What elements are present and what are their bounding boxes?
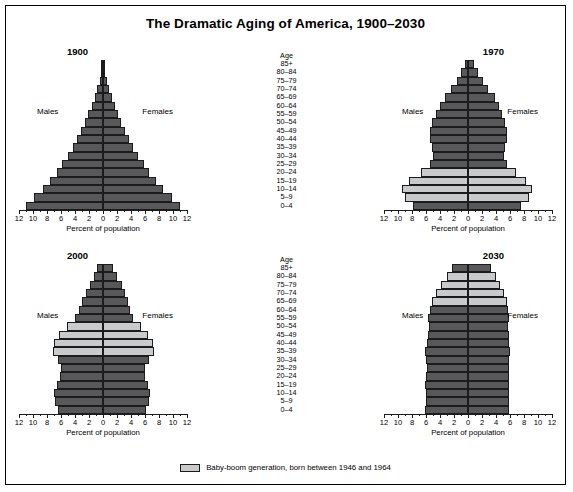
bar-female xyxy=(468,397,509,405)
x-axis-minor-tick xyxy=(68,210,69,212)
x-axis-minor-tick xyxy=(40,210,41,212)
bar-female xyxy=(468,102,499,110)
x-axis-minor-tick xyxy=(475,210,476,212)
bar-male xyxy=(426,372,468,380)
bar-female xyxy=(468,322,508,330)
males-label: Males xyxy=(37,311,58,320)
x-axis-minor-tick xyxy=(26,210,27,212)
bar-female xyxy=(468,193,529,201)
bar-male xyxy=(60,372,103,380)
bar-male xyxy=(53,347,103,355)
bar-male xyxy=(85,118,103,126)
x-axis-minor-tick xyxy=(40,414,41,416)
x-axis-tick-label: 12 xyxy=(179,418,195,427)
x-axis-minor-tick xyxy=(503,414,504,416)
x-axis-tick xyxy=(131,414,132,418)
bar-female xyxy=(468,272,496,280)
x-axis-minor-tick xyxy=(447,210,448,212)
x-axis-tick xyxy=(187,210,188,214)
x-axis-title: Percent of population xyxy=(384,224,552,233)
x-axis-title: Percent of population xyxy=(19,428,187,437)
x-axis-minor-tick xyxy=(54,210,55,212)
males-label: Males xyxy=(402,311,423,320)
bar-female xyxy=(468,202,521,210)
bar-female xyxy=(468,127,507,135)
x-axis-minor-tick xyxy=(124,414,125,416)
x-axis: 12108642024681012Percent of population xyxy=(19,414,187,444)
bar-female xyxy=(468,93,495,101)
x-axis-tick xyxy=(454,414,455,418)
x-axis-minor-tick xyxy=(82,414,83,416)
bar-male xyxy=(451,85,468,93)
panel-year-label: 2000 xyxy=(67,250,88,261)
x-axis-minor-tick xyxy=(433,210,434,212)
x-axis-minor-tick xyxy=(391,210,392,212)
bar-female xyxy=(103,118,121,126)
bar-female xyxy=(103,347,154,355)
bar-female xyxy=(468,297,507,305)
bar-female xyxy=(468,356,509,364)
x-axis: 12108642024681012Percent of population xyxy=(384,210,552,240)
bar-female xyxy=(468,85,488,93)
bar-female xyxy=(468,160,507,168)
bar-male xyxy=(54,389,103,397)
x-axis-tick xyxy=(173,210,174,214)
x-axis-tick xyxy=(454,210,455,214)
x-axis-tick xyxy=(468,210,469,214)
females-label: Females xyxy=(507,107,538,116)
bar-male xyxy=(67,322,103,330)
x-axis-tick xyxy=(187,414,188,418)
bar-female xyxy=(103,168,149,176)
bar-male xyxy=(57,168,103,176)
bar-female xyxy=(468,372,509,380)
bar-female xyxy=(468,289,504,297)
bar-male xyxy=(75,314,103,322)
x-axis-tick xyxy=(440,210,441,214)
x-axis-minor-tick xyxy=(503,210,504,212)
bar-female xyxy=(103,110,118,118)
bar-male xyxy=(58,406,104,414)
pyramid-plot: MalesFemales12108642024681012Percent of … xyxy=(19,264,187,431)
bar-female xyxy=(103,152,138,160)
bar-male xyxy=(55,397,103,405)
bar-male xyxy=(433,152,468,160)
x-axis-tick xyxy=(159,414,160,418)
x-axis-tick xyxy=(173,414,174,418)
bar-female xyxy=(103,389,150,397)
x-axis-minor-tick xyxy=(180,414,181,416)
x-axis-tick xyxy=(412,210,413,214)
bar-female xyxy=(468,168,516,176)
bar-male xyxy=(79,306,103,314)
bar-male xyxy=(50,177,103,185)
bar-male xyxy=(430,306,469,314)
males-label: Males xyxy=(402,107,423,116)
bar-female xyxy=(103,314,133,322)
x-axis-tick xyxy=(103,210,104,214)
x-axis-tick xyxy=(538,414,539,418)
x-axis-minor-tick xyxy=(152,414,153,416)
bar-male xyxy=(68,152,103,160)
x-axis-minor-tick xyxy=(545,210,546,212)
bar-female xyxy=(103,372,145,380)
bar-female xyxy=(103,272,117,280)
bar-female xyxy=(103,306,130,314)
bar-female xyxy=(103,339,153,347)
bar-male xyxy=(429,322,468,330)
age-axis-labels-top: Age 85+80–8475–7970–7465–6960–6455–5950–… xyxy=(263,52,311,210)
bar-male xyxy=(436,289,468,297)
x-axis-minor-tick xyxy=(489,210,490,212)
females-label: Females xyxy=(142,107,173,116)
bar-female xyxy=(103,185,163,193)
bar-female xyxy=(468,152,504,160)
bar-female xyxy=(468,135,507,143)
x-axis-tick xyxy=(482,414,483,418)
bar-male xyxy=(77,135,103,143)
x-axis-minor-tick xyxy=(138,414,139,416)
legend-swatch-baby-boom xyxy=(180,464,200,472)
x-axis-tick xyxy=(19,414,20,418)
bar-male xyxy=(59,331,103,339)
bar-female xyxy=(468,381,509,389)
bar-female xyxy=(103,331,148,339)
x-axis-minor-tick xyxy=(96,414,97,416)
x-axis-minor-tick xyxy=(405,414,406,416)
